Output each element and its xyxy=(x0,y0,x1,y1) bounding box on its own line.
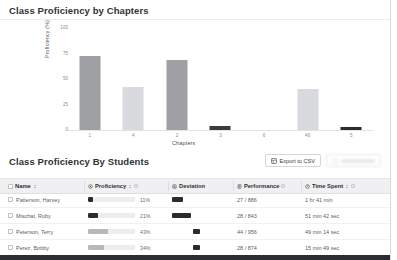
column-header-name[interactable]: Name xyxy=(8,179,37,193)
placeholder-icon xyxy=(332,158,338,164)
table-header-bar: Class Proficiency By Students Export to … xyxy=(0,148,391,177)
cell-deviation xyxy=(172,224,214,239)
column-divider xyxy=(168,181,169,191)
cell-name: Perez, Bobby xyxy=(8,240,49,255)
sort-icon[interactable] xyxy=(345,184,349,189)
target-icon xyxy=(88,184,93,189)
info-icon xyxy=(351,184,355,188)
deviation-bar xyxy=(172,213,214,218)
secondary-action-button[interactable] xyxy=(326,154,381,167)
deviation-bar-fill xyxy=(193,229,200,234)
column-divider xyxy=(84,181,85,191)
chart-title: Class Proficiency by Chapters xyxy=(9,5,149,16)
select-all-checkbox[interactable] xyxy=(8,184,13,189)
cell-performance: 44 / 956 xyxy=(237,224,257,239)
spreadsheet-icon xyxy=(271,158,277,164)
table-title: Class Proficiency By Students xyxy=(9,156,149,167)
student-name: Mischat, Ruby xyxy=(16,213,51,219)
bar[interactable] xyxy=(123,87,144,130)
cell-time-spent: 15 min 49 sec xyxy=(305,240,339,255)
proficiency-bar xyxy=(88,229,135,234)
cell-proficiency: 43% xyxy=(88,224,150,239)
sort-icon[interactable] xyxy=(128,184,132,189)
info-icon[interactable] xyxy=(281,184,285,188)
row-checkbox[interactable] xyxy=(8,229,13,234)
bar-slot xyxy=(329,28,373,130)
cell-performance: 27 / 886 xyxy=(237,192,257,207)
cell-proficiency: 34% xyxy=(88,240,150,255)
cell-deviation xyxy=(172,240,214,255)
deviation-bar xyxy=(172,197,214,202)
column-header-proficiency[interactable]: Proficiency xyxy=(88,179,138,193)
bar-slot xyxy=(242,28,286,130)
x-tick-label: 5 xyxy=(350,133,353,138)
y-axis-label: Proficiency (%) xyxy=(44,20,50,58)
cell-time-spent: 51 min 42 sec xyxy=(305,208,339,223)
table-body: Patterson, Harvey11%27 / 8861 hr 41 minM… xyxy=(0,192,391,256)
export-to-csv-label: Export to CSV xyxy=(280,158,315,164)
bar-slot xyxy=(199,28,243,130)
page-scroll-gutter[interactable] xyxy=(390,0,397,260)
row-checkbox[interactable] xyxy=(8,245,13,250)
bar[interactable] xyxy=(210,126,231,130)
info-icon xyxy=(281,184,285,188)
cell-proficiency: 11% xyxy=(88,192,150,207)
x-tick-label: 46 xyxy=(305,133,310,138)
page-root: Class Proficiency by Chapters Proficienc… xyxy=(0,0,397,260)
deviation-bar xyxy=(172,229,214,234)
deviation-bar xyxy=(172,245,214,250)
proficiency-bar-fill xyxy=(88,213,98,218)
x-tick-label: 4 xyxy=(132,133,135,138)
x-tick-label: 6 xyxy=(263,133,266,138)
sort-icon xyxy=(128,184,132,189)
proficiency-percent: 43% xyxy=(140,229,150,235)
x-tick-label: 3 xyxy=(219,133,222,138)
info-icon xyxy=(134,184,138,188)
bar-series xyxy=(68,28,373,130)
student-name: Peterson, Terry xyxy=(16,229,53,235)
bar[interactable] xyxy=(79,56,100,130)
table-row[interactable]: Peterson, Terry43%44 / 95649 min 14 sec xyxy=(0,224,391,240)
sort-icon[interactable] xyxy=(33,184,37,189)
sort-icon xyxy=(33,184,37,189)
table-row[interactable]: Patterson, Harvey11%27 / 8861 hr 41 min xyxy=(0,192,391,208)
table-row[interactable]: Mischat, Ruby21%28 / 84351 min 42 sec xyxy=(0,208,391,224)
table-row[interactable]: Perez, Bobby34%28 / 87415 min 49 sec xyxy=(0,240,391,256)
bar[interactable] xyxy=(341,127,362,130)
students-table-card: Class Proficiency By Students Export to … xyxy=(0,148,391,260)
table-actions: Export to CSV xyxy=(265,154,381,167)
proficiency-percent: 34% xyxy=(140,245,150,251)
proficiency-bar-fill xyxy=(88,245,104,250)
column-header-label: Deviation xyxy=(179,183,205,189)
bar[interactable] xyxy=(166,60,187,130)
x-axis-line xyxy=(68,130,373,131)
column-header-label: Time Spent xyxy=(312,183,343,189)
proficiency-percent: 21% xyxy=(140,213,150,219)
bar[interactable] xyxy=(297,89,318,130)
row-checkbox[interactable] xyxy=(8,197,13,202)
chart-icon xyxy=(172,184,177,189)
proficiency-bar-fill xyxy=(88,197,93,202)
student-name: Patterson, Harvey xyxy=(16,197,60,203)
info-icon[interactable] xyxy=(134,184,138,188)
column-header-label: Performance xyxy=(244,183,279,189)
cell-name: Patterson, Harvey xyxy=(8,192,60,207)
cell-deviation xyxy=(172,192,214,207)
secondary-action-label xyxy=(341,159,375,163)
row-checkbox[interactable] xyxy=(8,213,13,218)
sort-icon xyxy=(345,184,349,189)
proficiency-bar xyxy=(88,245,135,250)
column-header-performance[interactable]: Performance xyxy=(237,179,285,193)
column-header-time-spent[interactable]: Time Spent xyxy=(305,179,355,193)
proficiency-bar xyxy=(88,213,135,218)
proficiency-bar xyxy=(88,197,135,202)
cell-performance: 28 / 874 xyxy=(237,240,257,255)
bar-slot xyxy=(112,28,156,130)
clock-icon xyxy=(305,184,310,189)
deviation-bar-fill xyxy=(172,213,191,218)
x-tick-label: 1 xyxy=(89,133,92,138)
info-icon[interactable] xyxy=(351,184,355,188)
y-axis-ticks: 0255075100 xyxy=(52,28,68,130)
export-to-csv-button[interactable]: Export to CSV xyxy=(265,154,321,167)
column-header-deviation[interactable]: Deviation xyxy=(172,179,205,193)
